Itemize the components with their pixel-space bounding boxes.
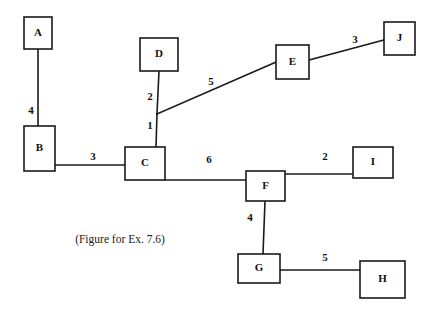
node-label-f: F [262,179,269,191]
node-label-e: E [289,55,296,67]
edge-weight-c-d: 1 [147,119,153,131]
nodes-layer: ABCDEFGHIJ [24,17,415,298]
edge-d-c [157,71,159,114]
node-e: E [276,45,309,79]
node-label-d: D [155,47,163,59]
edge-weight-c-e: 5 [208,75,214,87]
node-label-a: A [34,26,42,38]
node-i: I [353,147,393,178]
edge-weight-a-b: 4 [28,104,34,116]
node-label-c: C [141,156,149,168]
edge-weight-d-c: 2 [147,90,153,102]
node-label-g: G [255,261,264,273]
edge-weight-f-i: 2 [322,150,328,162]
edge-f-g [263,201,265,254]
node-label-b: B [36,141,44,153]
node-d: D [140,38,178,71]
edge-e-j [309,40,384,60]
node-h: H [360,261,405,298]
node-a: A [24,17,52,49]
edge-weight-e-j: 3 [352,33,358,45]
node-label-i: I [371,155,375,167]
node-j: J [384,22,415,55]
edge-c-d [156,114,157,147]
node-label-h: H [378,272,387,284]
edge-weight-b-c: 3 [90,150,96,162]
edge-weight-c-f: 6 [206,153,212,165]
graph-diagram: ABCDEFGHIJ 4321536245 (Figure for Ex. 7.… [0,0,434,319]
node-b: B [24,126,55,171]
figure-canvas: ABCDEFGHIJ 4321536245 (Figure for Ex. 7.… [0,0,434,319]
edge-weight-f-g: 4 [247,211,253,223]
figure-caption: (Figure for Ex. 7.6) [75,233,165,246]
node-f: F [246,171,285,201]
node-label-j: J [397,31,403,43]
edge-weight-g-h: 5 [322,251,328,263]
node-g: G [238,254,280,283]
node-c: C [125,147,165,180]
